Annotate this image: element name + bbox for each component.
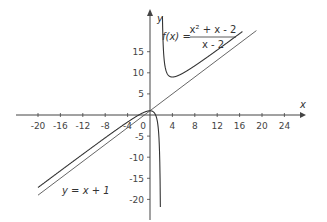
y-tick-label: -20 (129, 195, 144, 205)
y-tick-label: -15 (129, 174, 144, 184)
x-axis-arrow-icon (300, 112, 306, 118)
x-tick-label: 16 (234, 121, 246, 131)
y-tick-label: -10 (129, 153, 144, 163)
y-tick-label: 5 (138, 89, 144, 99)
x-ticks: -20-16-12-8-404812162024 (31, 113, 291, 131)
x-tick-label: 24 (279, 121, 291, 131)
function-denominator: x - 2 (202, 39, 224, 50)
x-tick-label: -16 (53, 121, 68, 131)
asymptote-line (38, 31, 256, 196)
x-tick-label: -8 (101, 121, 110, 131)
y-axis-arrow-icon (147, 9, 153, 16)
x-tick-label: 12 (211, 121, 222, 131)
x-tick-label: -12 (75, 121, 90, 131)
asymptote-label: y = x + 1 (61, 185, 110, 196)
y-tick-label: 10 (133, 68, 145, 78)
x-tick-label: -20 (31, 121, 46, 131)
function-label: f(x) = x² + x - 2 x - 2 (162, 24, 236, 50)
x-tick-label: 8 (192, 121, 198, 131)
y-tick-label: -5 (135, 132, 144, 142)
function-lhs: f(x) = (162, 31, 191, 42)
x-tick-label: 4 (170, 121, 176, 131)
x-axis-label: x (299, 99, 306, 110)
x-tick-label: 0 (140, 121, 146, 131)
function-numerator: x² + x - 2 (190, 24, 237, 35)
y-tick-label: 15 (133, 47, 144, 57)
x-tick-label: 20 (256, 121, 268, 131)
graph-canvas: -20-16-12-8-404812162024 15105-5-10-15-2… (0, 0, 327, 222)
